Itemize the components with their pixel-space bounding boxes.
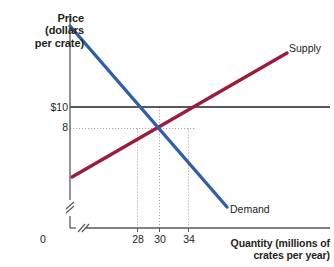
x-axis-origin-label: 0 [36, 234, 50, 246]
y-axis-title: Price (dollars per crate) [6, 12, 84, 49]
supply-curve-label: Supply [289, 43, 321, 55]
y-tick-label-10: $10 [22, 102, 68, 114]
x-tick-label-28: 28 [129, 234, 147, 246]
x-tick-label-34: 34 [180, 234, 198, 246]
x-tick-label-30: 30 [151, 234, 169, 246]
supply-demand-figure: Price (dollars per crate) Quantity (mill… [0, 0, 334, 267]
demand-curve-label: Demand [230, 204, 270, 216]
y-axis-break-mark [66, 202, 74, 213]
x-axis-title: Quantity (millions of crates per year) [218, 238, 330, 262]
supply-curve [72, 53, 287, 177]
demand-curve [70, 26, 227, 207]
y-tick-label-8: 8 [22, 122, 68, 134]
